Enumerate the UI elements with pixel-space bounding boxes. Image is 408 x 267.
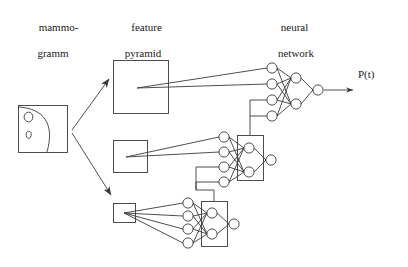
network-bottom xyxy=(183,198,239,248)
label-neural-network: neural network xyxy=(248,8,330,86)
diagram-canvas: mammo- gramm feature pyramid neural netw… xyxy=(0,0,408,267)
arrow-mammogram-to-small xyxy=(72,133,111,195)
label-mammogram-line2: gramm xyxy=(14,47,92,60)
cascade-middle-to-top xyxy=(250,100,267,135)
label-neural-network-line2: network xyxy=(248,47,330,60)
mammogram-icon xyxy=(19,106,68,153)
fanin-medium-pyramid xyxy=(126,137,219,157)
label-feature-pyramid-line1: feature xyxy=(131,21,162,33)
label-mammogram-line1: mammo- xyxy=(39,21,79,33)
middle-net-edges-hidden-out xyxy=(254,148,266,172)
label-feature-pyramid: feature pyramid xyxy=(102,8,180,86)
fanin-small-pyramid xyxy=(124,203,183,243)
bottom-net-nodes xyxy=(183,198,239,248)
label-output-probability: P(t) xyxy=(358,68,398,81)
middle-net-nodes xyxy=(219,132,276,187)
label-mammogram: mammo- gramm xyxy=(14,8,92,86)
label-neural-network-line1: neural xyxy=(281,21,308,33)
label-feature-pyramid-line2: pyramid xyxy=(102,47,180,60)
middle-net-edges-in-hidden xyxy=(229,137,244,182)
network-middle xyxy=(219,132,276,187)
bottom-net-edges-in-hidden xyxy=(193,203,207,243)
arrow-mammogram-to-large xyxy=(72,79,109,130)
cascade-bottom-to-middle xyxy=(196,167,219,201)
